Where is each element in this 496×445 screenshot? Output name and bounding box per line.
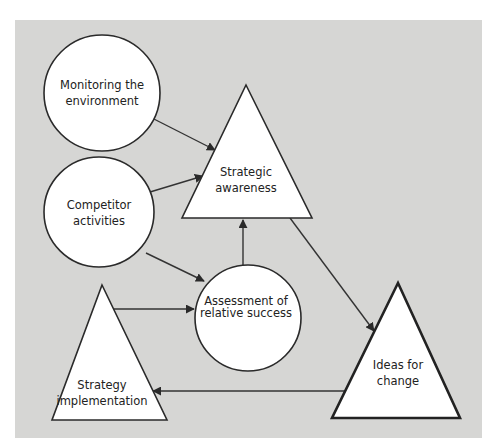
strategy-cycle-diagram: Monitoring the environment Strategic awa… [0,0,496,445]
svg-text:activities: activities [73,214,125,228]
node-label: Strategy [77,378,126,392]
svg-text:environment: environment [65,94,139,108]
node-monitoring-environment: Monitoring the environment [44,35,160,151]
svg-text:Competitor: Competitor [67,198,132,212]
node-label: activities [73,214,125,228]
svg-text:awareness: awareness [215,181,276,195]
node-label: implementation [56,394,147,408]
node-label: awareness [215,181,276,195]
node-label: relative success [200,306,292,320]
node-label: Ideas for [373,358,424,372]
svg-text:implementation: implementation [56,394,147,408]
svg-text:relative success: relative success [200,306,292,320]
svg-text:Ideas for: Ideas for [373,358,424,372]
node-label: Strategic [220,165,272,179]
node-competitor-activities: Competitor activities [44,157,154,267]
svg-text:Strategy: Strategy [77,378,126,392]
svg-text:change: change [377,374,419,388]
node-assessment-relative-success: Assessment of relative success [195,265,301,371]
svg-text:Strategic: Strategic [220,165,272,179]
node-label: change [377,374,419,388]
node-label: environment [65,94,139,108]
svg-text:Monitoring the: Monitoring the [60,78,144,92]
node-label: Competitor [67,198,132,212]
node-label: Monitoring the [60,78,144,92]
